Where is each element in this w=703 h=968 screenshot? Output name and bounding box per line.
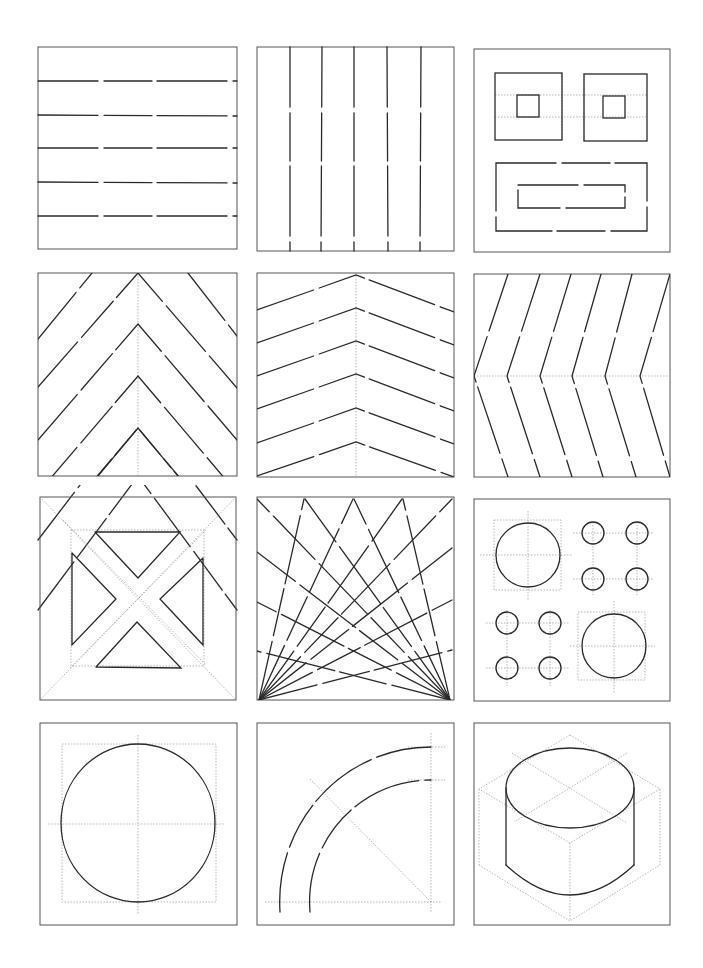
panel-isometric-cylinder	[474, 723, 670, 925]
panel-horizontal-chevrons	[474, 274, 670, 477]
panel-circles	[474, 499, 670, 701]
panel-diagonal-cross	[40, 497, 236, 700]
sheet-overlay	[0, 0, 703, 968]
panel-circle-in-square	[40, 723, 237, 925]
panel-shallow-chevrons	[257, 273, 454, 477]
panel-radiating-lines	[257, 497, 454, 700]
panel-quarter-arc	[257, 723, 454, 925]
